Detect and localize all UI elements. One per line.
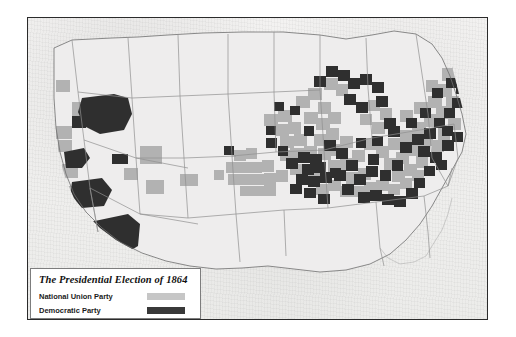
legend-label-democratic: Democratic Party bbox=[39, 306, 147, 315]
map-legend: The Presidential Election of 1864 Nation… bbox=[30, 268, 201, 319]
democratic-swatch bbox=[147, 307, 185, 314]
legend-title: The Presidential Election of 1864 bbox=[39, 274, 192, 285]
legend-item-national-union: National Union Party bbox=[39, 289, 192, 303]
union-swatch bbox=[147, 293, 185, 300]
legend-label-national-union: National Union Party bbox=[39, 292, 147, 301]
map-page: The Presidential Election of 1864 Nation… bbox=[0, 0, 516, 337]
legend-item-democratic: Democratic Party bbox=[39, 303, 192, 317]
election-map-frame: The Presidential Election of 1864 Nation… bbox=[27, 17, 488, 320]
